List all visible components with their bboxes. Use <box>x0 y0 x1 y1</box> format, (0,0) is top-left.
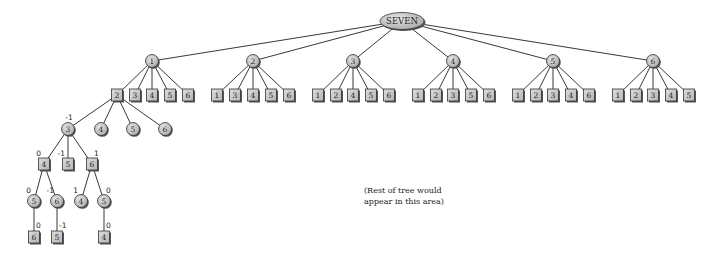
circle-node: 41 <box>73 186 89 209</box>
node-label: 4 <box>351 91 356 100</box>
square-node: 3 <box>230 89 243 103</box>
game-tree-diagram: SEVEN12345623456134561245612356123461234… <box>0 0 720 258</box>
node-label: 4 <box>569 91 574 100</box>
square-node: 6 <box>584 89 597 103</box>
node-label: 5 <box>551 57 556 66</box>
node-label: 6 <box>163 125 168 134</box>
node-label: 5 <box>102 197 107 206</box>
node-label: 4 <box>102 233 107 242</box>
node-label: 3 <box>451 91 456 100</box>
node-label: 5 <box>369 91 374 100</box>
node-value: 0 <box>36 221 41 230</box>
circle-node: 50 <box>98 186 112 209</box>
square-node: 5 <box>366 89 379 103</box>
node-value: 0 <box>36 149 41 158</box>
tree-edge <box>402 21 653 61</box>
square-node: 2 <box>112 89 125 103</box>
square-node: 61 <box>87 149 100 172</box>
node-label: 2 <box>115 91 120 100</box>
node-label: 2 <box>334 91 339 100</box>
circle-node: 4 <box>95 123 109 137</box>
circle-node: 6 <box>159 123 173 137</box>
square-node: 4 <box>147 89 160 103</box>
node-label: 6 <box>55 197 60 206</box>
node-label: 4 <box>669 91 674 100</box>
node-label: 6 <box>186 91 191 100</box>
note-line-2: appear in this area) <box>364 196 464 207</box>
node-label: 6 <box>387 91 392 100</box>
circle-node: 2 <box>247 55 261 69</box>
note-line-1: (Rest of tree would <box>364 185 464 196</box>
square-node: 2 <box>531 89 544 103</box>
node-label: 2 <box>251 57 256 66</box>
square-node: 1 <box>313 89 326 103</box>
node-label: 3 <box>66 125 71 134</box>
node-value: 0 <box>26 186 31 195</box>
square-node: 5-1 <box>58 149 75 172</box>
node-value: -1 <box>47 186 55 195</box>
node-label: 5 <box>32 197 37 206</box>
node-value: -1 <box>65 113 73 122</box>
node-label: 4 <box>79 197 84 206</box>
node-value: 0 <box>106 221 111 230</box>
node-label: 1 <box>416 91 421 100</box>
node-label: 4 <box>451 57 456 66</box>
root-label: SEVEN <box>386 16 418 26</box>
node-label: 5 <box>55 233 60 242</box>
tree-edge <box>68 95 117 129</box>
square-node: 40 <box>36 149 51 172</box>
square-node: 3 <box>130 89 143 103</box>
square-node: 3 <box>548 89 561 103</box>
square-node: 5-1 <box>52 221 67 245</box>
node-value: 0 <box>106 186 111 195</box>
circle-node: 5 <box>547 55 561 69</box>
node-value: 1 <box>94 149 99 158</box>
square-node: 4 <box>348 89 361 103</box>
node-value: -1 <box>58 149 66 158</box>
node-label: 1 <box>215 91 220 100</box>
square-node: 40 <box>99 221 112 245</box>
node-label: 4 <box>251 91 256 100</box>
node-label: 4 <box>42 160 47 169</box>
node-label: 5 <box>168 91 173 100</box>
node-label: 2 <box>434 91 439 100</box>
node-label: 6 <box>32 233 37 242</box>
node-label: 6 <box>651 57 656 66</box>
square-node: 5 <box>684 89 697 103</box>
node-label: 2 <box>534 91 539 100</box>
circle-node: 4 <box>447 55 461 69</box>
square-node: 1 <box>212 89 225 103</box>
square-node: 6 <box>183 89 196 103</box>
node-label: 2 <box>634 91 639 100</box>
node-label: 6 <box>587 91 592 100</box>
root-node: SEVEN <box>380 13 426 32</box>
node-value: -1 <box>59 221 67 230</box>
node-label: 5 <box>66 160 71 169</box>
square-node: 5 <box>165 89 178 103</box>
square-node: 3 <box>648 89 661 103</box>
node-label: 1 <box>150 57 155 66</box>
node-label: 3 <box>351 57 356 66</box>
node-label: 3 <box>551 91 556 100</box>
square-node: 1 <box>513 89 526 103</box>
node-value: 1 <box>73 186 78 195</box>
square-node: 4 <box>248 89 261 103</box>
node-label: 4 <box>150 91 155 100</box>
circle-node: 50 <box>26 186 42 209</box>
square-node: 3 <box>448 89 461 103</box>
square-node: 4 <box>566 89 579 103</box>
node-label: 1 <box>616 91 621 100</box>
square-node: 5 <box>466 89 479 103</box>
node-label: 5 <box>687 91 692 100</box>
node-label: 3 <box>233 91 238 100</box>
square-node: 6 <box>384 89 397 103</box>
node-label: 1 <box>316 91 321 100</box>
placeholder-note: (Rest of tree would appear in this area) <box>364 185 464 207</box>
node-label: 6 <box>90 160 95 169</box>
square-node: 1 <box>613 89 626 103</box>
circle-node: 1 <box>146 55 160 69</box>
node-label: 5 <box>469 91 474 100</box>
square-node: 1 <box>413 89 426 103</box>
square-node: 2 <box>431 89 444 103</box>
square-node: 60 <box>29 221 42 245</box>
